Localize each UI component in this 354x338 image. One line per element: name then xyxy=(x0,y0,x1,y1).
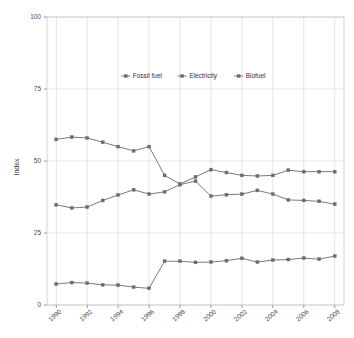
data-point-marker xyxy=(101,283,104,286)
data-point-marker xyxy=(209,195,212,198)
data-point-marker xyxy=(333,255,336,258)
data-point-marker xyxy=(163,260,166,263)
x-tick-label: 1998 xyxy=(171,308,187,323)
data-point-marker xyxy=(209,168,212,171)
data-point-marker xyxy=(271,259,274,262)
data-point-marker xyxy=(318,170,321,173)
data-point-marker xyxy=(86,282,89,285)
data-point-marker xyxy=(86,206,89,209)
data-point-marker xyxy=(70,281,73,284)
data-point-marker xyxy=(117,193,120,196)
y-tick-label: 0 xyxy=(37,301,41,308)
data-point-marker xyxy=(225,259,228,262)
legend-label: Electricity xyxy=(189,72,218,80)
x-tick-label: 2004 xyxy=(263,308,279,323)
x-axis-ticks: 1990199219941996199820002002200420062008 xyxy=(47,305,341,322)
data-point-marker xyxy=(318,258,321,261)
data-point-marker xyxy=(302,257,305,260)
data-point-marker xyxy=(86,136,89,139)
data-point-marker xyxy=(179,260,182,263)
chart-container: 0255075100 19901992199419961998200020022… xyxy=(0,0,354,338)
data-point-marker xyxy=(148,145,151,148)
legend-marker-icon xyxy=(124,75,127,78)
x-tick-label: 2006 xyxy=(294,308,310,323)
legend-marker-icon xyxy=(181,75,184,78)
data-point-marker xyxy=(163,174,166,177)
data-point-marker xyxy=(240,174,243,177)
legend-label: Fossil fuel xyxy=(133,72,163,79)
data-point-marker xyxy=(333,203,336,206)
data-point-marker xyxy=(70,206,73,209)
data-point-marker xyxy=(132,149,135,152)
line-chart: 0255075100 19901992199419961998200020022… xyxy=(0,0,354,338)
y-axis-ticks: 0255075100 xyxy=(30,13,47,308)
data-point-marker xyxy=(70,136,73,139)
data-point-marker xyxy=(101,141,104,144)
data-point-marker xyxy=(318,200,321,203)
y-tick-label: 100 xyxy=(30,13,41,20)
data-point-marker xyxy=(287,169,290,172)
data-point-marker xyxy=(55,203,58,206)
data-point-marker xyxy=(240,257,243,260)
data-point-marker xyxy=(179,183,182,186)
data-point-marker xyxy=(101,199,104,202)
data-point-marker xyxy=(256,174,259,177)
data-point-marker xyxy=(333,170,336,173)
data-point-marker xyxy=(240,193,243,196)
data-point-marker xyxy=(117,145,120,148)
data-point-marker xyxy=(148,193,151,196)
data-point-marker xyxy=(225,193,228,196)
data-point-marker xyxy=(256,189,259,192)
data-point-marker xyxy=(163,190,166,193)
y-axis-title: Index xyxy=(13,158,20,176)
y-tick-label: 25 xyxy=(34,229,42,236)
data-point-marker xyxy=(55,282,58,285)
y-tick-label: 75 xyxy=(34,85,42,92)
data-point-marker xyxy=(117,284,120,287)
data-point-marker xyxy=(194,180,197,183)
x-tick-label: 1994 xyxy=(109,308,125,323)
y-axis-title-group: Index xyxy=(13,158,20,176)
legend-marker-icon xyxy=(237,75,240,78)
data-point-marker xyxy=(287,198,290,201)
data-point-marker xyxy=(225,171,228,174)
data-point-marker xyxy=(55,138,58,141)
x-tick-label: 1992 xyxy=(78,308,94,323)
data-point-marker xyxy=(302,170,305,173)
data-point-marker xyxy=(271,193,274,196)
data-point-marker xyxy=(194,175,197,178)
data-point-marker xyxy=(194,261,197,264)
data-point-marker xyxy=(209,261,212,264)
data-point-marker xyxy=(271,174,274,177)
data-point-marker xyxy=(287,258,290,261)
data-point-marker xyxy=(148,287,151,290)
x-tick-label: 2008 xyxy=(325,308,341,323)
y-tick-label: 50 xyxy=(34,157,42,164)
data-point-marker xyxy=(132,286,135,289)
x-tick-label: 2002 xyxy=(233,308,249,323)
x-tick-label: 1990 xyxy=(47,308,63,323)
data-point-marker xyxy=(256,261,259,264)
data-point-marker xyxy=(132,188,135,191)
legend-label: Biofuel xyxy=(246,72,266,79)
x-tick-label: 2000 xyxy=(202,308,218,323)
data-point-marker xyxy=(302,199,305,202)
x-tick-label: 1996 xyxy=(140,308,156,323)
